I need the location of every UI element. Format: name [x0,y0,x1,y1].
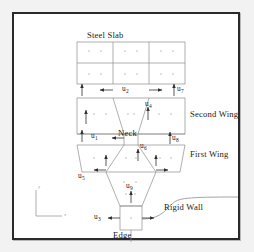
dof-sub-u7: 7 [181,88,184,94]
dof-label-u3: u3 [94,213,101,223]
dof-label-u2: u2 [122,85,129,95]
dof-sub-u9: 9 [130,185,133,191]
figure-frame: Steel Slab Second Wing Neck First Wing R… [12,12,240,240]
steel-slab-label: Steel Slab [87,31,124,40]
slab-mesh-dots [88,50,173,74]
axis-indicator [36,190,62,216]
dof-label-u1: u1 [91,132,98,142]
second-wing-label: Second Wing [190,110,238,119]
dof-sub-u5: 5 [82,175,85,181]
dof-arrows [82,84,174,218]
dof-sub-u3: 3 [98,216,101,222]
first-wing-dots [93,157,171,158]
axis-y-label: y [38,185,40,189]
axis-x-label: x [64,213,66,217]
figure-root: Steel Slab Second Wing Neck First Wing R… [0,0,254,252]
dof-label-u5: u5 [78,172,85,182]
dof-label-u8: u8 [172,134,179,144]
edge-stem-dots [130,217,131,218]
dof-sub-u1: 1 [95,135,98,141]
dof-label-u4: u4 [145,100,152,110]
dof-sub-u8: 8 [176,137,179,143]
dof-label-u7: u7 [177,85,184,95]
first-wing-mesh [77,145,185,172]
dof-label-u9: u9 [126,182,133,192]
rigid-wall-label: Rigid Wall [164,203,203,212]
dof-label-u6: u6 [140,142,147,152]
second-wing-dots [93,113,171,114]
neck-label: Neck [118,129,137,138]
dof-sub-u6: 6 [144,145,147,151]
slab-mesh [77,42,185,84]
edge-label: Edge [113,231,131,240]
figure-canvas: Steel Slab Second Wing Neck First Wing R… [14,14,238,238]
dof-sub-u4: 4 [149,103,152,109]
dof-sub-u2: 2 [126,88,129,94]
first-wing-label: First Wing [190,150,229,159]
